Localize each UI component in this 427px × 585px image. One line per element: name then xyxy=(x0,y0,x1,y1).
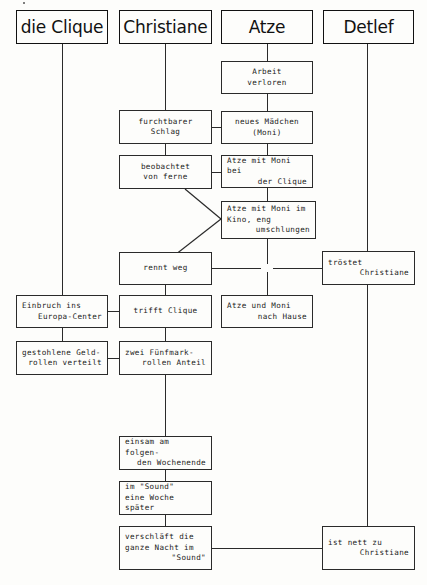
connector-renntweg-to-troestet-right xyxy=(273,268,322,269)
node-line: einsam am folgen- xyxy=(125,437,206,458)
node-line: Christiane xyxy=(328,548,409,559)
node-trifft-clique: trifft Clique xyxy=(119,295,212,328)
node-im-sound-eine-woche-spaeter: im "Sound" eine Woche später xyxy=(119,481,212,515)
node-line: rollen Anteil xyxy=(125,358,206,369)
node-line: verschläft die xyxy=(125,532,206,543)
node-einsam-am-folgenden-wochenende: einsam am folgen- den Wochenende xyxy=(119,436,212,470)
node-line: Europa-Center xyxy=(22,312,102,323)
node-line: Einbruch ins xyxy=(22,301,102,312)
connector-einbruch-to-gestohlene xyxy=(62,328,63,341)
node-line: tröstet xyxy=(328,258,409,269)
node-line: gestohlene Geld- xyxy=(22,348,102,359)
connector-einsam-to-sound xyxy=(165,470,166,481)
connector-trifft-to-fuenfmark xyxy=(165,328,166,341)
connector-gestohlene-to-fuenfmark xyxy=(108,358,119,359)
node-line: trifft Clique xyxy=(134,306,198,317)
node-ist-nett-zu-christiane: ist nett zu Christiane xyxy=(322,526,415,570)
node-gestohlene-geldrollen-verteilt: gestohlene Geld- rollen verteilt xyxy=(16,341,108,375)
node-rennt-weg: rennt weg xyxy=(119,252,212,285)
connector-fuenfmark-to-einsam xyxy=(165,375,166,436)
connector-renntweg-to-trifft xyxy=(165,285,166,295)
node-line: Christiane xyxy=(328,268,409,279)
node-line: rollen verteilt xyxy=(22,358,102,369)
node-line: zwei Fünfmark- xyxy=(125,348,206,359)
node-line: ist nett zu xyxy=(328,538,409,549)
node-einbruch-ins-europa-center: Einbruch ins Europa-Center xyxy=(16,295,108,328)
node-line: den Wochenende xyxy=(125,458,206,469)
node-line: rennt weg xyxy=(143,263,187,274)
flowchart-canvas: die Clique Christiane Atze Detlef Arbeit… xyxy=(0,0,427,585)
node-zwei-fuenfmarkrollen-anteil: zwei Fünfmark- rollen Anteil xyxy=(119,341,212,375)
connector-troestet-to-nettzu xyxy=(367,285,368,526)
node-verschlaeft-die-ganze-nacht: verschläft die ganze Nacht im "Sound" xyxy=(119,526,212,570)
node-troestet-christiane: tröstet Christiane xyxy=(322,251,415,285)
connector-sound-to-verschlaeft xyxy=(165,515,166,526)
connector-verschlaeft-to-nettzu xyxy=(212,548,322,549)
node-line: im "Sound" xyxy=(125,482,206,493)
connector-einbruch-to-trifft xyxy=(108,311,119,312)
node-line: "Sound" xyxy=(125,553,206,564)
connector-renntweg-to-troestet-left xyxy=(212,268,261,269)
node-line: eine Woche später xyxy=(125,493,206,514)
diagonal-beobachtet-to-kino xyxy=(185,189,221,219)
node-line: ganze Nacht im xyxy=(125,543,206,554)
diagonal-connectors xyxy=(0,0,427,585)
